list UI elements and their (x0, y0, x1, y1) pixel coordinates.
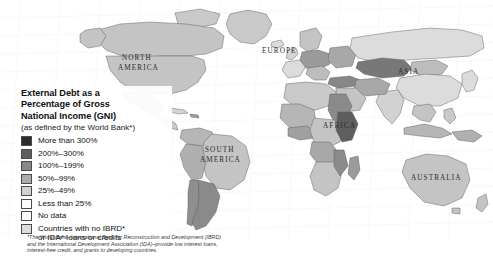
continent-label-south-america-line2: AMERICA (200, 156, 241, 164)
legend-swatch-less-than-25 (21, 199, 32, 209)
legend-item-50-99: 50%–99% (21, 173, 170, 185)
continent-label-asia: ASIA (398, 68, 419, 76)
footnote-line-2: and the International Development Associ… (27, 241, 277, 248)
legend-swatch-50-99 (21, 174, 32, 184)
continent-label-europe: EUROPE (262, 47, 297, 55)
legend-swatch-100-199 (21, 161, 32, 171)
continent-label-north-america-line2: AMERICA (118, 64, 159, 72)
legend-swatch-no-data (21, 211, 32, 221)
legend-title-line2: Percentage of Gross (21, 99, 170, 110)
legend-label-50-99: 50%–99% (38, 173, 75, 184)
continent-label-africa: AFRICA (323, 122, 356, 130)
legend-swatch-200-300 (21, 149, 32, 159)
country-canada (96, 22, 224, 58)
legend-item-no-data: No data (21, 210, 170, 222)
legend-swatch-25-49 (21, 186, 32, 196)
continent-label-north-america-line1: NORTH (122, 54, 152, 62)
legend-label-100-199: 100%–199% (38, 160, 84, 171)
map-figure: NORTH AMERICA SOUTH AMERICA EUROPE AFRIC… (0, 0, 493, 267)
legend-item-more-than-300: More than 300% (21, 135, 170, 147)
legend-item-100-199: 100%–199% (21, 160, 170, 172)
continent-label-australia: AUSTRALIA (411, 174, 462, 182)
legend-title-line1: External Debt as a (21, 88, 170, 99)
legend-item-list: More than 300% 200%–300% 100%–199% 50%–9… (18, 135, 170, 243)
legend-label-more-than-300: More than 300% (38, 135, 97, 146)
legend-item-less-than-25: Less than 25% (21, 198, 170, 210)
map-legend: External Debt as a Percentage of Gross N… (16, 86, 172, 245)
footnote-line-1: *The World Bank–International Bank for R… (27, 234, 277, 241)
legend-swatch-no-ibrd-ida (21, 224, 32, 234)
legend-label-25-49: 25%–49% (38, 185, 75, 196)
country-tasmania (452, 208, 460, 214)
footnote-line-3: interest-free credit, and grants to deve… (27, 247, 277, 254)
legend-swatch-more-than-300 (21, 136, 32, 146)
legend-subtitle: (as defined by the World Bank*) (21, 122, 170, 133)
legend-label-no-data: No data (38, 210, 66, 221)
legend-label-200-300: 200%–300% (38, 148, 84, 159)
continent-label-south-america-line1: SOUTH (205, 146, 234, 154)
footnote: *The World Bank–International Bank for R… (27, 234, 277, 254)
legend-item-200-300: 200%–300% (21, 148, 170, 160)
legend-item-25-49: 25%–49% (21, 185, 170, 197)
legend-title-line3: National Income (GNI) (21, 111, 170, 122)
legend-label-less-than-25: Less than 25% (38, 198, 92, 209)
